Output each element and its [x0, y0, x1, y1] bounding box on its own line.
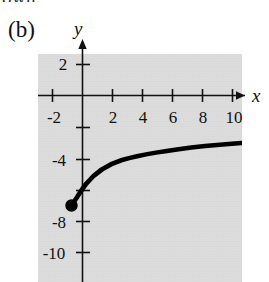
- x-tick-label-6: 6: [169, 109, 178, 126]
- x-tick-label-10: 10: [226, 109, 243, 126]
- endpoint-dot: [65, 199, 77, 211]
- x-axis-label: x: [252, 86, 260, 105]
- y-axis: [78, 39, 86, 282]
- curve-path: [72, 143, 241, 205]
- x-axis: [38, 91, 245, 100]
- x-tick-label-2: 2: [109, 109, 118, 126]
- x-tick-label-8: 8: [199, 109, 208, 126]
- x-tick-label-4: 4: [139, 109, 148, 126]
- y-tick-label--4: -4: [52, 152, 66, 169]
- x-tick-label--2: -2: [47, 109, 61, 126]
- y-axis-label: y: [74, 19, 82, 38]
- y-tick-label-2: 2: [59, 56, 68, 73]
- y-tick-label--8: -8: [52, 214, 66, 231]
- y-tick-label--10: -10: [43, 245, 66, 262]
